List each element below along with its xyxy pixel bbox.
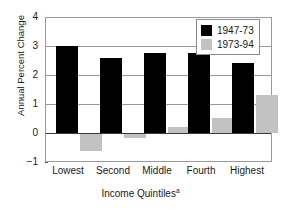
x-tick-label-second: Second [90,165,136,176]
y-tick-mark-neg-1 [45,162,48,163]
x-axis-title: Income Quintilesa [0,187,281,199]
bar-1973-94-middle [168,127,190,133]
legend-label-1973-94: 1973-94 [217,39,254,50]
x-tick-label-middle: Middle [134,165,180,176]
bar-1947-73-highest [232,63,254,133]
legend-swatch-icon-1947-73 [201,25,212,36]
legend-swatch-icon-1973-94 [201,39,212,50]
x-tick-label-lowest: Lowest [45,165,91,176]
bar-1973-94-second [124,134,146,138]
x-tick-label-highest: Highest [222,165,272,176]
bar-1947-73-fourth [188,53,210,133]
y-axis-title: Annual Percent Change [15,0,26,136]
bar-chart-figure: Distributed Since 1973 4 3 2 1 0 −1 Annu… [0,0,281,214]
x-axis-title-footnote-marker: a [176,187,180,194]
legend-item-1947-73: 1947-73 [201,23,254,37]
bar-1947-73-second [100,58,122,133]
bar-1973-94-highest [256,95,278,133]
bar-1973-94-lowest [80,134,102,151]
bar-1947-73-lowest [56,46,78,133]
legend: 1947-73 1973-94 [196,19,260,55]
x-tick-label-fourth: Fourth [178,165,224,176]
bar-1947-73-middle [144,53,166,133]
legend-label-1947-73: 1947-73 [217,25,254,36]
legend-item-1973-94: 1973-94 [201,37,254,51]
y-tick-label-neg-1: −1 [0,157,38,167]
x-axis-title-text: Income Quintiles [101,188,175,199]
bar-1973-94-fourth [212,118,234,133]
